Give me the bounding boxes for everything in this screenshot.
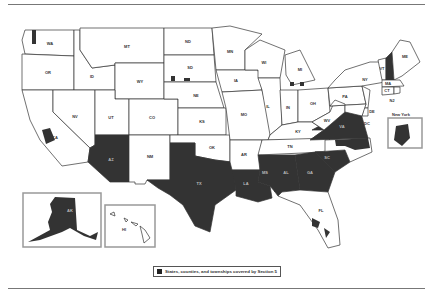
wa-partial <box>32 30 36 44</box>
label-id: ID <box>90 74 94 79</box>
label-oh: OH <box>310 101 316 106</box>
label-mo: MO <box>241 112 247 117</box>
label-ut: UT <box>108 115 114 120</box>
legend-swatch <box>157 269 162 274</box>
label-ia: IA <box>234 78 238 83</box>
label-wy: WY <box>137 79 144 84</box>
label-mt: MT <box>124 44 130 49</box>
bottom-rule <box>8 288 425 289</box>
label-co: CO <box>149 115 155 120</box>
label-ak: AK <box>67 208 73 213</box>
label-ky: KY <box>295 129 301 134</box>
label-ga: GA <box>307 170 313 175</box>
label-ma: MA <box>385 81 391 86</box>
label-ar: AR <box>241 152 247 157</box>
state-ia <box>216 70 262 92</box>
state-ny <box>328 62 385 88</box>
label-wi: WI <box>262 60 267 65</box>
label-ms: MS <box>262 170 268 175</box>
label-de: DE <box>369 109 375 114</box>
label-wa: WA <box>47 41 54 46</box>
label-al: AL <box>283 170 289 175</box>
label-ct: CT <box>384 88 390 93</box>
label-ok: OK <box>209 145 215 150</box>
us-map: WA OR CA ID NV MT WY UT AZ CO NM ND SD N… <box>0 0 441 292</box>
label-nd: ND <box>185 39 191 44</box>
label-va: VA <box>339 124 344 129</box>
label-sc: SC <box>324 155 330 160</box>
label-or: OR <box>45 70 51 75</box>
label-me: ME <box>402 54 408 59</box>
label-in: IN <box>286 105 290 110</box>
label-la: LA <box>243 181 248 186</box>
state-nm <box>129 135 170 184</box>
label-mi: MI <box>298 67 302 72</box>
label-sd: SD <box>187 65 193 70</box>
legend-label: States, counties, and townships covered … <box>165 269 277 274</box>
hawaii-inset <box>105 205 155 247</box>
label-nv: NV <box>72 114 78 119</box>
label-mn: MN <box>227 49 233 54</box>
label-tx: TX <box>196 181 201 186</box>
label-tn: TN <box>287 144 292 149</box>
state-fl <box>278 190 340 248</box>
state-ri <box>394 87 400 94</box>
label-ne: NE <box>193 93 199 98</box>
label-vt: VT <box>379 66 385 71</box>
label-nm: NM <box>147 154 154 159</box>
label-ca: CA <box>52 135 58 140</box>
label-ny: NY <box>362 77 368 82</box>
label-pa: PA <box>342 94 347 99</box>
label-nj: NJ <box>389 98 394 103</box>
state-me <box>392 40 420 80</box>
label-ks: KS <box>199 119 205 124</box>
label-wv: WV <box>324 118 331 123</box>
legend: States, counties, and townships covered … <box>153 266 281 277</box>
state-mt <box>80 28 164 68</box>
new-york-inset-title: New York <box>392 112 411 117</box>
label-fl: FL <box>319 208 324 213</box>
label-il: IL <box>266 104 270 109</box>
label-az: AZ <box>108 157 114 162</box>
label-hi: HI <box>122 227 126 232</box>
label-dc: DC <box>364 121 370 126</box>
